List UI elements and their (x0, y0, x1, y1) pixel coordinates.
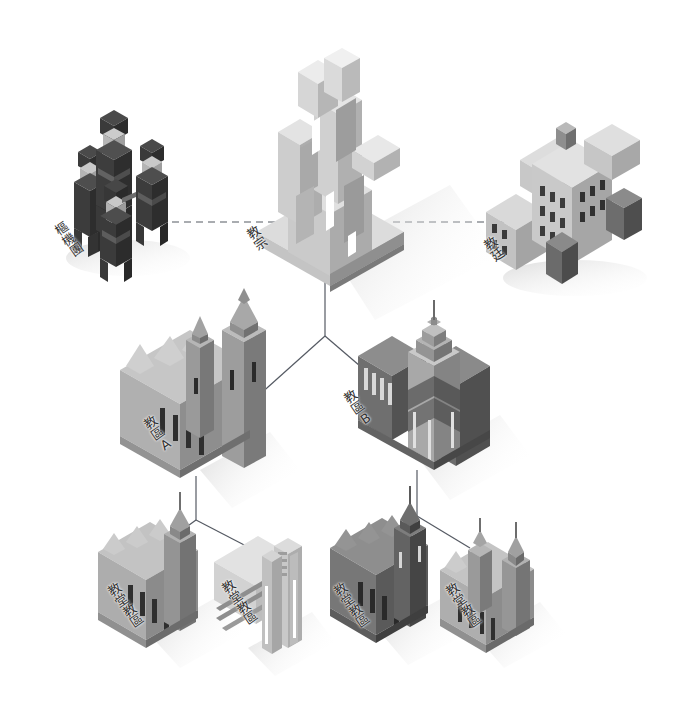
node-pope[interactable] (256, 48, 500, 320)
node-parish-2[interactable] (214, 536, 335, 676)
person-icon-3 (100, 179, 132, 282)
node-diocese-a[interactable] (120, 288, 300, 508)
node-parish-4[interactable] (440, 518, 566, 668)
node-diocese-b[interactable] (358, 300, 530, 500)
isometric-hierarchy-diagram (0, 0, 679, 710)
diagram-canvas: 樞機團 教宗 教廷 教區A 教區B 教堂教區 教堂教區 教堂教區 教堂教區 (0, 0, 679, 710)
node-cardinals[interactable] (66, 110, 190, 282)
connector-diocese-a-to-parish-2 (196, 520, 250, 548)
node-holy-see[interactable] (486, 122, 647, 296)
connector-pope-to-diocese-a (258, 336, 325, 396)
